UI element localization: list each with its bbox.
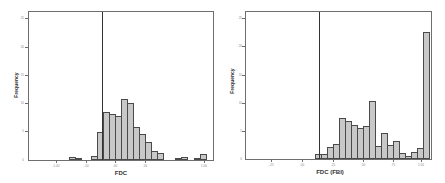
y-tick-label: 15 [228, 73, 242, 77]
reference-line [319, 12, 320, 159]
y-tick-label: 25 [228, 16, 242, 20]
x-tick-label: 1.00 [194, 164, 214, 168]
plot-area [245, 11, 432, 160]
y-tick-label: 0 [228, 157, 242, 161]
y-tick-label: 5 [228, 129, 242, 133]
y-tick-label: 0 [10, 158, 24, 162]
x-tick-label: .50 [135, 164, 155, 168]
x-tick-label: .00 [292, 163, 312, 167]
x-tick [302, 159, 303, 162]
histogram-bar [181, 157, 188, 160]
x-tick [115, 160, 116, 163]
x-tick-label: 1.00 [411, 163, 431, 167]
histogram-fdc-fbi: Frequency 25 20 15 10 5 0 [222, 0, 445, 183]
y-tick-label: 5 [10, 129, 24, 133]
x-tick-label: .00 [105, 164, 125, 168]
x-tick [421, 159, 422, 162]
y-tick-label: 20 [10, 45, 24, 49]
x-tick [145, 160, 146, 163]
x-tick [56, 160, 57, 163]
x-tick-label: -1.00 [46, 164, 66, 168]
x-tick-label: -.50 [76, 164, 96, 168]
x-tick [271, 159, 272, 162]
y-tick-label: 15 [10, 73, 24, 77]
x-tick [333, 159, 334, 162]
bars [29, 11, 213, 160]
x-tick [204, 160, 205, 163]
plot-area [28, 11, 214, 161]
x-axis-title: FDC (FBI) [300, 169, 360, 175]
y-tick-label: 10 [10, 101, 24, 105]
x-tick [393, 159, 394, 162]
y-tick-label: 10 [228, 101, 242, 105]
x-tick-label: -.25 [261, 163, 281, 167]
bars [246, 11, 431, 159]
histogram-bar [75, 158, 82, 160]
reference-line [102, 12, 103, 160]
histogram-bar [157, 153, 164, 160]
histogram-fdc: Frequency 25 20 15 10 5 0 [0, 0, 222, 183]
y-tick-label: 20 [228, 44, 242, 48]
histogram-bar [423, 32, 430, 159]
x-tick-label: .75 [383, 163, 403, 167]
x-axis-title: FDC [91, 170, 151, 176]
x-tick [86, 160, 87, 163]
x-tick-label: .25 [323, 163, 343, 167]
x-tick-label: .50 [353, 163, 373, 167]
x-tick [363, 159, 364, 162]
y-axis-title: Frequency [13, 65, 19, 105]
y-axis-title: Frequency [229, 61, 235, 101]
y-tick-label: 25 [10, 16, 24, 20]
